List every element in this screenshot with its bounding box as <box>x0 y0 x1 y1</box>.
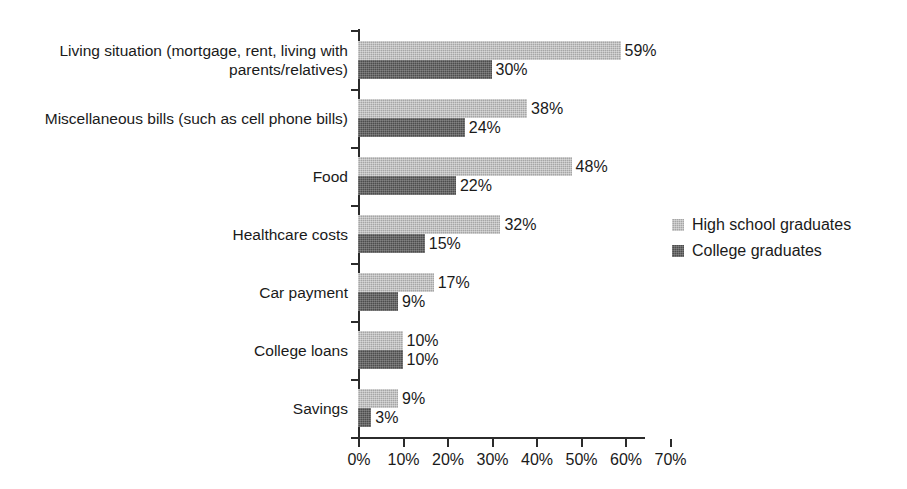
x-axis-tick-label: 40% <box>521 450 553 470</box>
bar-group: 38%24% <box>358 89 678 147</box>
bar-college-graduates <box>358 350 403 369</box>
bar-value-label: 17% <box>434 273 470 292</box>
bar-college-graduates <box>358 234 425 253</box>
bar-high-school-graduates <box>358 331 403 350</box>
category-label-slot: Food <box>0 147 358 205</box>
x-axis-tick-label: 0% <box>347 450 370 470</box>
legend-swatch-icon <box>672 245 684 257</box>
category-label: Miscellaneous bills (such as cell phone … <box>18 109 358 128</box>
bar-value-label: 30% <box>492 60 528 79</box>
plot-area: 59%30%38%24%48%22%32%15%17%9%10%10%9%3% <box>358 31 678 437</box>
category-label-slot: Car payment <box>0 263 358 321</box>
category-label-slot: Miscellaneous bills (such as cell phone … <box>0 89 358 147</box>
bar-college-graduates <box>358 408 371 427</box>
bar-value-label: 15% <box>425 234 461 253</box>
x-axis-tick <box>492 439 494 447</box>
x-axis-tick <box>625 439 627 447</box>
bar-value-label: 38% <box>527 99 563 118</box>
legend-label: High school graduates <box>692 215 851 235</box>
bar-high-school-graduates <box>358 215 500 234</box>
x-axis-tick-label: 30% <box>476 450 508 470</box>
x-axis-tick-label: 60% <box>610 450 642 470</box>
category-label: Food <box>18 167 358 186</box>
x-axis-tick <box>536 439 538 447</box>
bar-college-graduates <box>358 292 398 311</box>
bar-value-label: 9% <box>398 292 425 311</box>
x-axis-tick-label: 10% <box>387 450 419 470</box>
x-axis-tick <box>358 439 360 447</box>
bar-group: 32%15% <box>358 205 678 263</box>
x-axis-tick <box>447 439 449 447</box>
category-label: Car payment <box>18 283 358 302</box>
category-label-slot: Healthcare costs <box>0 205 358 263</box>
category-tick <box>351 147 360 149</box>
category-tick <box>351 30 360 32</box>
legend-item-high-school-graduates[interactable]: High school graduates <box>672 212 851 238</box>
bar-value-label: 22% <box>456 176 492 195</box>
chart-legend: High school graduatesCollege graduates <box>672 212 851 264</box>
category-tick <box>351 321 360 323</box>
category-label: Savings <box>18 399 358 418</box>
bar-value-label: 32% <box>500 215 536 234</box>
bar-group: 48%22% <box>358 147 678 205</box>
category-tick <box>351 379 360 381</box>
x-axis-tick <box>403 439 405 447</box>
bar-high-school-graduates <box>358 41 621 60</box>
category-axis-labels: Living situation (mortgage, rent, living… <box>0 31 358 437</box>
bar-value-label: 48% <box>572 157 608 176</box>
bar-value-label: 59% <box>621 41 657 60</box>
bar-high-school-graduates <box>358 389 398 408</box>
bar-value-label: 10% <box>403 350 439 369</box>
bar-group: 17%9% <box>358 263 678 321</box>
bar-group: 59%30% <box>358 31 678 89</box>
x-axis-tick <box>670 439 672 447</box>
bar-college-graduates <box>358 176 456 195</box>
x-axis-tick-label: 50% <box>565 450 597 470</box>
bar-group: 10%10% <box>358 321 678 379</box>
category-label: College loans <box>18 341 358 360</box>
legend-label: College graduates <box>692 241 822 261</box>
x-axis-tick-label: 70% <box>654 450 686 470</box>
legend-swatch-icon <box>672 219 684 231</box>
bar-college-graduates <box>358 60 492 79</box>
category-label: Living situation (mortgage, rent, living… <box>18 41 358 79</box>
bar-value-label: 9% <box>398 389 425 408</box>
category-tick <box>351 205 360 207</box>
bar-high-school-graduates <box>358 157 572 176</box>
category-label-slot: Living situation (mortgage, rent, living… <box>0 31 358 89</box>
bar-value-label: 10% <box>403 331 439 350</box>
x-axis-tick-label: 20% <box>432 450 464 470</box>
bar-college-graduates <box>358 118 465 137</box>
category-axis-line <box>358 437 645 439</box>
bar-high-school-graduates <box>358 273 434 292</box>
category-label-slot: Savings <box>0 379 358 437</box>
legend-item-college-graduates[interactable]: College graduates <box>672 238 851 264</box>
x-axis-tick <box>581 439 583 447</box>
category-tick <box>351 263 360 265</box>
category-tick <box>351 89 360 91</box>
bar-high-school-graduates <box>358 99 527 118</box>
bar-value-label: 3% <box>371 408 398 427</box>
bar-chart: Living situation (mortgage, rent, living… <box>0 0 907 489</box>
category-label-slot: College loans <box>0 321 358 379</box>
category-label: Healthcare costs <box>18 225 358 244</box>
bar-group: 9%3% <box>358 379 678 437</box>
bar-value-label: 24% <box>465 118 501 137</box>
